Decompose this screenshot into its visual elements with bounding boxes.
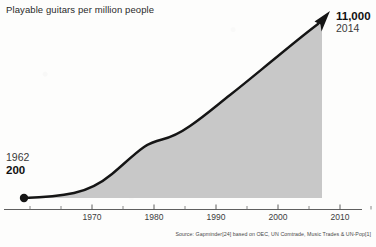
x-tick-label-1970: 1970	[83, 212, 102, 222]
x-tick-label-1980: 1980	[145, 212, 164, 222]
start-point-marker	[20, 194, 28, 202]
end-annotation: 11,000 2014	[336, 10, 371, 35]
x-tick-label-2000: 2000	[269, 212, 288, 222]
start-annotation: 1962 200	[6, 152, 29, 177]
source-note: Source: Gapminder[24] based on OEC, UN C…	[175, 231, 371, 237]
chart-plot-area	[0, 0, 376, 247]
start-value-label: 200	[6, 164, 29, 176]
x-tick-label-1990: 1990	[207, 212, 226, 222]
area-fill	[24, 21, 322, 198]
x-tick-label-2010: 2010	[331, 212, 350, 222]
end-value-label: 11,000	[336, 10, 371, 22]
x-axis-minor-ticks	[30, 206, 371, 210]
start-year-label: 1962	[6, 152, 29, 163]
chart-screenshot: Playable guitars per million people	[0, 0, 376, 247]
end-year-label: 2014	[336, 23, 371, 34]
x-axis-major-ticks	[92, 205, 340, 210]
